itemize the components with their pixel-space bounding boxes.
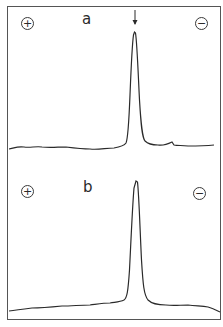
- cathode-icon-a: −: [195, 17, 208, 30]
- electrophoresis-figure: + a − + b −: [0, 0, 223, 327]
- trace-a: [9, 32, 214, 149]
- panel-label-a: a: [82, 12, 91, 27]
- anode-icon-a: +: [21, 17, 34, 30]
- panel-label-b: b: [83, 180, 93, 195]
- figure-canvas: [0, 0, 223, 327]
- peak-arrow-icon: [133, 10, 138, 25]
- figure-border: [8, 7, 221, 320]
- cathode-icon-b: −: [193, 187, 206, 200]
- trace-b: [9, 181, 220, 312]
- anode-icon-b: +: [21, 185, 34, 198]
